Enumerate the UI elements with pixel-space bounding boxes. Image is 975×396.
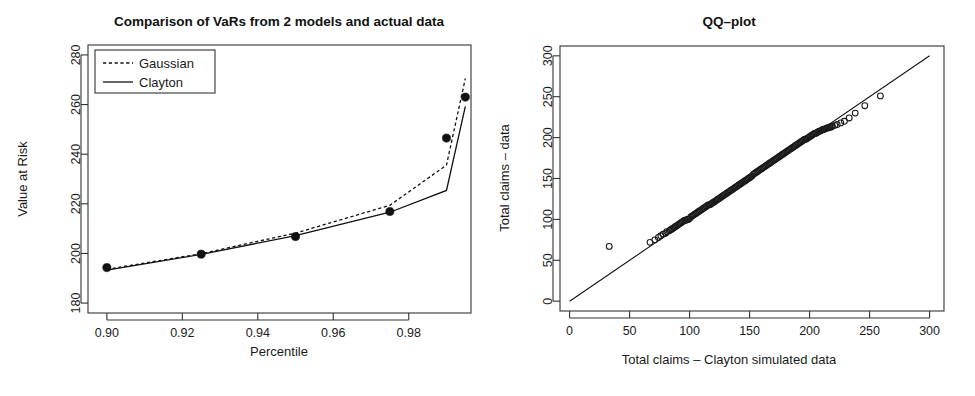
- var-data-point: [197, 250, 205, 258]
- var-x-axis-label: Percentile: [250, 344, 308, 359]
- qq-x-tick-label: 150: [739, 324, 760, 338]
- qq-x-tick-label: 300: [919, 324, 940, 338]
- qq-y-axis-label: Total claims – data: [497, 123, 512, 231]
- qq-point: [862, 103, 868, 109]
- qq-scatter-points: [606, 93, 883, 249]
- var-data-point: [386, 207, 394, 215]
- var-series-gaussian: [107, 79, 465, 270]
- qq-x-axis-label: Total claims – Clayton simulated data: [622, 352, 837, 367]
- var-plot-title: Comparison of VaRs from 2 models and act…: [114, 14, 445, 29]
- qq-point: [846, 115, 852, 121]
- var-actual-data-points: [103, 93, 470, 272]
- qq-plot-panel: QQ–plot Total claims – Clayton simulated…: [487, 0, 975, 396]
- var-data-point: [103, 263, 111, 271]
- qq-plot-title: QQ–plot: [702, 14, 756, 29]
- var-legend-label: Gaussian: [139, 56, 194, 71]
- qq-point: [606, 243, 612, 249]
- qq-point: [838, 120, 844, 126]
- var-x-tick-group: 0.900.920.940.960.98: [95, 313, 421, 340]
- var-series-group: [107, 79, 465, 271]
- qq-x-tick-label: 100: [679, 324, 700, 338]
- var-comparison-panel: Comparison of VaRs from 2 models and act…: [0, 0, 487, 396]
- var-legend-label: Clayton: [139, 75, 183, 90]
- var-comparison-svg: Comparison of VaRs from 2 models and act…: [0, 0, 487, 396]
- qq-point: [878, 93, 884, 99]
- var-legend: GaussianClayton: [95, 50, 215, 93]
- qq-plot-svg: QQ–plot Total claims – Clayton simulated…: [487, 0, 975, 396]
- var-y-tick-group: 180200220240260280: [69, 44, 88, 313]
- var-x-tick-label: 0.90: [95, 326, 119, 340]
- var-data-point: [461, 93, 469, 101]
- qq-x-tick-label: 0: [566, 324, 573, 338]
- var-data-point: [442, 134, 450, 142]
- qq-x-tick-label: 50: [623, 324, 637, 338]
- var-x-tick-label: 0.92: [170, 326, 194, 340]
- qq-x-tick-group: 050100150200250300: [566, 311, 940, 338]
- var-x-tick-label: 0.96: [321, 326, 345, 340]
- var-series-clayton: [107, 106, 465, 270]
- var-x-tick-label: 0.94: [246, 326, 270, 340]
- qq-x-tick-label: 250: [859, 324, 880, 338]
- var-data-point: [291, 232, 299, 240]
- var-x-tick-label: 0.98: [397, 326, 421, 340]
- var-y-axis-label: Value at Risk: [15, 141, 30, 217]
- qq-point: [852, 110, 858, 116]
- qq-y-tick-group: 050100150200250300: [541, 45, 560, 304]
- qq-x-tick-label: 200: [799, 324, 820, 338]
- figure-canvas: Comparison of VaRs from 2 models and act…: [0, 0, 975, 396]
